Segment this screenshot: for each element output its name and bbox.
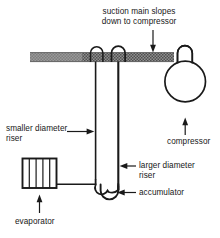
smaller-diameter-riser-label: smaller diameter riser bbox=[6, 124, 67, 143]
suction-main-label: suction main slopes down to compressor bbox=[79, 7, 199, 26]
accumulator-leader-arrow bbox=[117, 190, 136, 196]
smaller-riser-leader-arrow bbox=[67, 129, 94, 135]
evaporator-label: evaporator bbox=[15, 217, 55, 227]
evaporator-leader-arrow bbox=[37, 195, 43, 214]
larger-diameter-riser-label: larger diameter riser bbox=[139, 161, 195, 180]
larger-riser-leader-arrow bbox=[120, 163, 136, 169]
suction-main-leader-arrow bbox=[150, 30, 156, 53]
compressor-leader-arrow bbox=[182, 118, 188, 136]
smaller-diameter-riser-pipe bbox=[91, 47, 103, 180]
accumulator-u-bend bbox=[95, 180, 118, 199]
larger-diameter-riser-pipe bbox=[112, 46, 126, 190]
compressor-label: compressor bbox=[167, 137, 210, 147]
suction-main-pipe bbox=[30, 53, 174, 62]
accumulator-label: accumulator bbox=[139, 188, 184, 198]
diagram-canvas bbox=[0, 0, 220, 238]
evaporator-coil-box bbox=[23, 159, 57, 189]
refrigeration-piping-diagram: suction main slopes down to compressor s… bbox=[0, 0, 220, 238]
